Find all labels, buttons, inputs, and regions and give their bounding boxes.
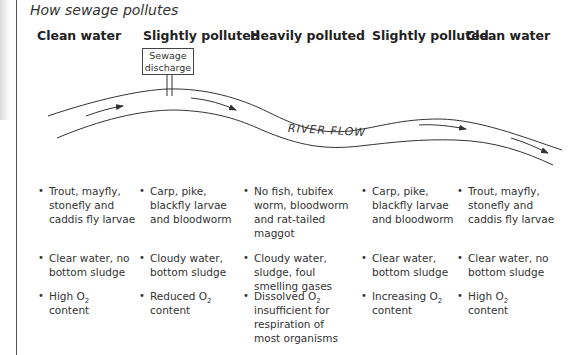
water-slight-1: Cloudy water, bottom sludge: [139, 251, 226, 279]
organisms-clean-2: Trout, mayfly, stonefly and caddis fly l…: [457, 184, 554, 226]
organisms-slight-2: Carp, pike, blackfly larvae and bloodwor…: [361, 184, 454, 226]
water-clean-1: Clear water, no bottom sludge: [38, 251, 129, 279]
sewage-discharge-label: Sewage discharge: [142, 48, 194, 75]
flow-arrow-icon: [419, 125, 466, 129]
oxygen-clean-2: High O2 content: [457, 289, 508, 317]
organisms-clean-1: Trout, mayfly, stonefly and caddis fly l…: [38, 184, 135, 226]
flow-arrow-icon: [191, 98, 236, 110]
water-clean-2: Clear water, no bottom sludge: [457, 251, 548, 279]
oxygen-slight-1: Reduced O2 content: [139, 289, 212, 317]
water-slight-2: Clear water, bottom sludge: [361, 251, 448, 279]
organisms-heavy: No fish, tubifex worm, bloodworm and rat…: [243, 184, 349, 240]
flow-arrow-icon: [86, 106, 123, 116]
river-bottom-bank: [57, 110, 553, 165]
oxygen-clean-1: High O2 content: [38, 289, 89, 317]
oxygen-heavy: Dissolved O2 insufficient for respiratio…: [243, 289, 338, 345]
water-heavy: Cloudy water, sludge, foul smelling gase…: [243, 251, 332, 293]
sewage-box-line2: discharge: [143, 62, 193, 74]
organisms-slight-1: Carp, pike, blackfly larvae and bloodwor…: [139, 184, 232, 226]
sewage-box-line1: Sewage: [143, 50, 193, 62]
river-top-bank: [48, 89, 562, 150]
oxygen-slight-2: Increasing O2 content: [361, 289, 442, 317]
